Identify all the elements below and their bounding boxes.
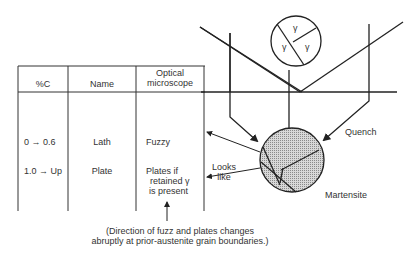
row1-optical: Fuzzy	[146, 137, 170, 147]
note-line-1: (Direction of fuzz and plates changes	[70, 226, 290, 236]
header-microscope: microscope	[136, 78, 204, 88]
looks-like-label-1: Looks	[206, 162, 242, 172]
martensite-circle	[260, 128, 324, 192]
martensite-label: Martensite	[325, 190, 367, 200]
gamma-label-left: γ	[282, 42, 287, 52]
header-optical: Optical	[136, 68, 204, 78]
row2-name: Plate	[68, 166, 136, 176]
looks-like-label-2: like	[206, 172, 242, 182]
row2-optical-line2: retained γ	[150, 176, 190, 186]
gamma-label-right: γ	[305, 42, 310, 52]
header-carbon: %C	[18, 79, 68, 89]
row2-optical-line3: is present	[149, 186, 188, 196]
note-line-2: abruptly at prior-austenite grain bounda…	[70, 236, 290, 246]
gamma-label-top: γ	[293, 23, 298, 33]
row2-optical-line1: Plates if	[146, 166, 178, 176]
header-name: Name	[68, 79, 136, 89]
row2-carbon: 1.0 → Up	[24, 166, 62, 176]
row1-name: Lath	[68, 137, 136, 147]
quench-label: Quench	[345, 127, 377, 137]
row1-carbon: 0 → 0.6	[24, 137, 56, 147]
